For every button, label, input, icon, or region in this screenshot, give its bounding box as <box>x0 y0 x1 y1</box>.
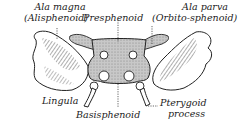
label-basisphenoid: Basisphenoid <box>76 110 140 120</box>
label-pterygoid: Pterygoid <box>160 98 207 108</box>
pterygoid-processes <box>84 88 150 107</box>
sphenoid-body <box>88 39 150 91</box>
label-lingula: Lingula <box>42 96 78 106</box>
label-presphenoid: Presphenoid <box>83 13 143 23</box>
label-orbito-sphenoid: (Orbito-sphenoid) <box>152 13 237 23</box>
label-ala-magna: Ala magna <box>20 2 100 12</box>
sphenoid-diagram: Ala magna (Alisphenoid) Presphenoid Ala … <box>0 0 238 125</box>
label-process: process <box>168 109 205 119</box>
label-ala-parva: Ala parva <box>170 2 238 12</box>
